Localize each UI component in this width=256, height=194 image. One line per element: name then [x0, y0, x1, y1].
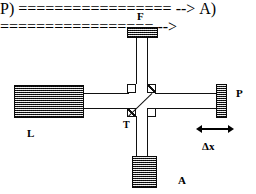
component-block-filter	[127, 27, 158, 38]
arrow-shaft	[201, 128, 229, 130]
junction-pad-top-right	[147, 84, 156, 93]
channel-horizontal-top-left	[84, 93, 129, 94]
channel-vertical-right-lower	[147, 116, 148, 156]
label-displacement: Δx	[202, 141, 215, 152]
channel-horizontal-bottom-left	[84, 108, 129, 109]
label-detector: A	[178, 175, 186, 186]
arrow-head-right-icon	[228, 125, 234, 133]
channel-vertical-left-upper	[136, 38, 137, 84]
channel-horizontal-top-right	[155, 93, 217, 94]
label-filter: F	[137, 11, 144, 22]
label-laser: L	[27, 128, 35, 139]
junction-pad-bottom-right	[147, 108, 156, 117]
channel-vertical-left-lower	[136, 116, 137, 156]
interferometer-diagram: P) ================= --> A) ============…	[0, 0, 256, 194]
label-beam-splitter: T	[123, 120, 130, 130]
component-block-detector	[132, 156, 157, 188]
junction-pad-top-left	[127, 84, 136, 93]
channel-horizontal-bottom-right	[155, 108, 217, 109]
component-block-laser	[14, 85, 84, 118]
displacement-arrow	[196, 125, 234, 134]
channel-vertical-right-upper	[147, 38, 148, 84]
component-block-mirror	[216, 84, 227, 118]
label-mirror: P	[236, 88, 243, 99]
